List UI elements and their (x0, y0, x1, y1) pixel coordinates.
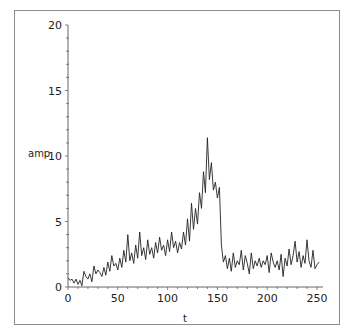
x-tick-label: 250 (307, 292, 328, 305)
x-tick-label: 200 (257, 292, 278, 305)
y-tick-label: 0 (55, 281, 62, 294)
line-chart: 05101520 050100150200250 amp t (0, 0, 350, 335)
x-axis-label: t (183, 313, 187, 324)
x-tick-label: 100 (157, 292, 178, 305)
x-tick-label: 50 (111, 292, 125, 305)
y-axis: 05101520 (48, 19, 69, 294)
y-tick-label: 5 (55, 216, 62, 229)
y-tick-label: 20 (48, 19, 62, 32)
y-axis-label: amp (28, 148, 50, 159)
x-axis: 050100150200250 (65, 287, 328, 305)
y-tick-label: 15 (48, 85, 62, 98)
x-tick-label: 150 (207, 292, 228, 305)
x-tick-label: 0 (65, 292, 72, 305)
amp-series-line (68, 138, 319, 286)
